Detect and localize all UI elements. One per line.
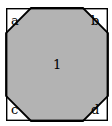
corner-label-d: d (91, 103, 99, 116)
region-label-1: 1 (53, 58, 61, 71)
corner-label-a: a (11, 14, 19, 27)
corner-label-c: c (11, 103, 18, 116)
corner-label-b: b (91, 14, 99, 27)
figure-container: a b c d 1 (0, 0, 112, 126)
